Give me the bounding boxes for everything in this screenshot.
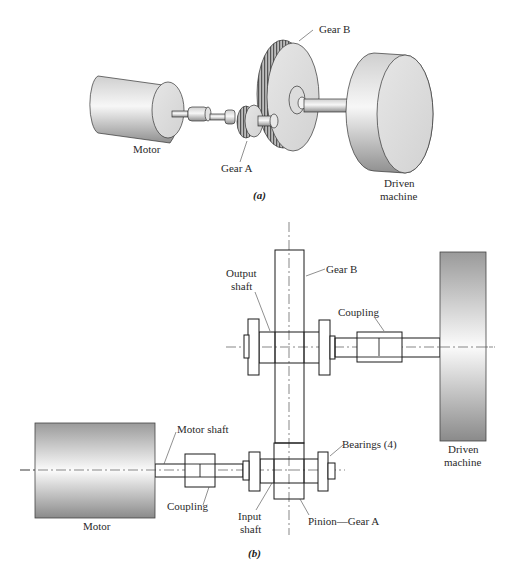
caption-a: (a) — [253, 189, 266, 202]
label-gear-b-a: Gear B — [319, 23, 350, 35]
label-driven-a-1: Driven — [384, 177, 415, 189]
label-pinion: Pinion—Gear A — [308, 515, 379, 527]
output-shaft-3d — [304, 99, 350, 112]
leader-gear-b-b — [306, 269, 325, 276]
label-motor-shaft: Motor shaft — [177, 423, 229, 435]
label-coupling-top: Coupling — [338, 306, 379, 318]
label-bearings: Bearings (4) — [342, 438, 397, 451]
figure-b: Gear B Output shaft Coupling Driven mach… — [20, 222, 495, 560]
label-input-shaft-2: shaft — [240, 523, 261, 535]
driven-machine-block — [440, 252, 486, 441]
label-input-shaft-1: Input — [238, 510, 261, 522]
leader-coupling-top — [375, 318, 384, 331]
label-motor-b: Motor — [83, 520, 111, 532]
gear-b-3d — [257, 40, 319, 151]
label-gear-a-a: Gear A — [221, 162, 253, 174]
motor-3d — [90, 76, 184, 143]
leader-motor-shaft — [164, 432, 176, 464]
input-shaft-assembly — [155, 452, 335, 491]
label-output-shaft-2: shaft — [231, 280, 252, 292]
gear-drive-diagram: Gear B Motor Gear A Driven machine (a) — [0, 0, 517, 579]
leader-gear-b — [299, 30, 313, 41]
coupling-top-rect — [357, 332, 402, 362]
motor-block — [35, 423, 155, 518]
driven-machine-3d — [346, 53, 433, 173]
label-driven-b-1: Driven — [448, 443, 479, 455]
label-output-shaft-1: Output — [226, 267, 257, 279]
output-shaft-assembly — [244, 319, 440, 375]
label-gear-b-b: Gear B — [326, 263, 357, 275]
label-motor-a: Motor — [133, 143, 161, 155]
leader-gear-a — [240, 141, 247, 162]
figure-a: Gear B Motor Gear A Driven machine (a) — [90, 23, 433, 202]
label-driven-b-2: machine — [444, 456, 481, 468]
label-driven-a-2: machine — [380, 190, 417, 202]
caption-b: (b) — [248, 547, 261, 560]
leader-pinion — [300, 499, 309, 515]
label-coupling-bottom: Coupling — [167, 500, 208, 512]
